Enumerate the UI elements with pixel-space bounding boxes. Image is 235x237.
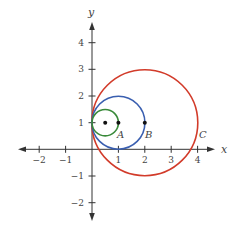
y-tick-label: −2 — [71, 198, 84, 208]
x-axis-label: x — [221, 143, 228, 156]
x-axis-right-arrow-icon — [207, 147, 215, 153]
x-tick-label: −1 — [59, 155, 72, 165]
y-tick-label: 4 — [78, 38, 84, 48]
green-center-point — [103, 121, 107, 125]
y-axis-label: y — [87, 6, 95, 19]
y-tick-label: 2 — [78, 91, 84, 101]
label-c: C — [199, 129, 207, 140]
x-tick-label: 1 — [116, 155, 122, 165]
x-axis-left-arrow-icon — [18, 147, 26, 153]
x-tick-label: 2 — [142, 155, 148, 165]
point-b — [143, 121, 147, 125]
y-axis-down-arrow-icon — [89, 213, 95, 221]
label-b: B — [144, 129, 152, 140]
x-tick-label: 3 — [168, 155, 174, 165]
diagram-svg: −2 −1 1 2 3 4 x 4 3 2 1 −1 −2 y — [0, 0, 235, 237]
x-tick-label: 4 — [195, 155, 201, 165]
y-tick-label: −1 — [71, 171, 84, 181]
coordinate-plane-figure: −2 −1 1 2 3 4 x 4 3 2 1 −1 −2 y — [0, 0, 235, 237]
y-axis-up-arrow-icon — [89, 22, 95, 30]
label-a: A — [116, 129, 124, 140]
y-axis: 4 3 2 1 −1 −2 y — [71, 6, 96, 221]
y-tick-label: 3 — [78, 64, 84, 74]
point-a — [116, 121, 120, 125]
x-axis: −2 −1 1 2 3 4 x — [18, 143, 228, 165]
x-tick-label: −2 — [33, 155, 46, 165]
y-tick-label: 1 — [78, 118, 84, 128]
